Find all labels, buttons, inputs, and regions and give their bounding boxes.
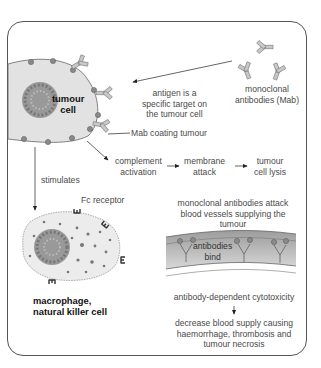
vessel-note: monoclonal antibodies attack blood vesse… xyxy=(172,198,294,230)
outcome-label-line3: tumour necrosis xyxy=(172,339,296,350)
outcome-label: decrease blood supply causing haemorrhag… xyxy=(172,318,296,350)
effector-cell-label-line1: macrophage, xyxy=(33,295,107,306)
lysis-label: tumour cell lysis xyxy=(254,156,286,177)
adcc-label: antibody-dependent cytotoxicity xyxy=(172,292,296,303)
arrow-cell-to-complement xyxy=(87,141,108,160)
complement-label-line1: complement xyxy=(115,156,162,167)
tumour-cell-label: tumour cell xyxy=(52,93,84,115)
stimulates-label: stimulates xyxy=(41,175,80,186)
outcome-label-line1: decrease blood supply causing xyxy=(172,318,296,329)
outcome-label-line2: haemorrhage, thrombosis and xyxy=(172,329,296,340)
tumour-cell-label-line2: cell xyxy=(52,104,84,115)
membrane-label: membrane attack xyxy=(184,156,225,177)
antigen-note: antigen is a specific target on the tumo… xyxy=(142,88,207,120)
antibodies-bind-line2: bind xyxy=(193,252,232,263)
leader-mab-coating xyxy=(108,133,130,134)
lysis-label-line1: tumour xyxy=(254,156,286,167)
complement-label: complement activation xyxy=(115,156,162,177)
antibodies-bind-label: antibodies bind xyxy=(193,241,232,262)
antibodies-bind-line1: antibodies xyxy=(193,241,232,252)
lysis-label-line2: cell lysis xyxy=(254,167,286,178)
fc-receptor-label: Fc receptor xyxy=(81,195,124,206)
membrane-label-line1: membrane xyxy=(184,156,225,167)
mab-label: monoclonal antibodies (Mab) xyxy=(235,84,299,105)
antigen-note-line2: specific target on xyxy=(142,99,207,110)
vessel-note-line1: monoclonal antibodies attack xyxy=(172,198,294,209)
vessel-note-line2: blood vessels supplying the xyxy=(172,209,294,220)
mab-coating-label: Mab coating tumour xyxy=(131,128,207,139)
membrane-label-line2: attack xyxy=(184,167,225,178)
vessel-note-line3: tumour xyxy=(172,219,294,230)
free-antibodies xyxy=(237,40,286,81)
effector-cell-label-line2: natural killer cell xyxy=(33,306,107,317)
mab-label-line2: antibodies (Mab) xyxy=(235,95,299,106)
effector-cell-shape xyxy=(23,209,125,284)
effector-cell-label: macrophage, natural killer cell xyxy=(33,295,107,317)
antigen-note-line1: antigen is a xyxy=(142,88,207,99)
arrow-mab-to-cell xyxy=(133,61,232,82)
mab-label-line1: monoclonal xyxy=(235,84,299,95)
tumour-cell-label-line1: tumour xyxy=(52,93,84,104)
antigen-note-line3: the tumour cell xyxy=(142,109,207,120)
complement-label-line2: activation xyxy=(115,167,162,178)
